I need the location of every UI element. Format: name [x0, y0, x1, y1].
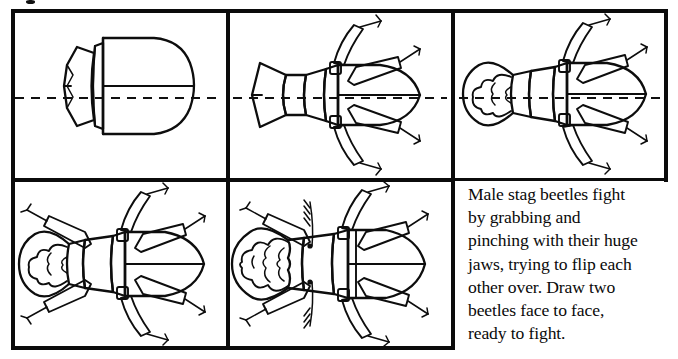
frame-bottom-border: [11, 346, 455, 350]
caption-line-3: pinching with their huge: [468, 229, 678, 252]
frame-middle-divider-right: [455, 178, 668, 181]
frame-right-border-top-row: [664, 9, 668, 182]
caption-line-2: by grabbing and: [468, 206, 678, 229]
panel-step-1: [15, 13, 226, 178]
illustration-page: Male stag beetles fight by grabbing and …: [0, 0, 678, 359]
beetle-step-2-drawing: [230, 13, 451, 178]
caption-line-6: beetles face to face,: [468, 299, 678, 322]
caption-line-5: other over. Draw two: [468, 276, 678, 299]
panel-step-4: [15, 182, 226, 346]
panel-step-2: [230, 13, 451, 178]
cropped-text-remnant: [26, 0, 35, 4]
beetle-step-1-drawing: [15, 13, 226, 178]
panel-step-3: [455, 13, 664, 178]
caption-line-1: Male stag beetles fight: [468, 183, 678, 206]
panel-step-5: [230, 182, 451, 346]
beetle-step-4-drawing: [15, 182, 226, 346]
instruction-caption: Male stag beetles fight by grabbing and …: [468, 183, 678, 359]
beetle-step-5-drawing: [230, 182, 451, 346]
beetle-step-3-drawing: [455, 13, 664, 178]
frame-vertical-divider-2-bottom: [451, 178, 455, 350]
caption-line-7: ready to fight.: [468, 322, 678, 345]
caption-line-4: jaws, trying to flip each: [468, 253, 678, 276]
